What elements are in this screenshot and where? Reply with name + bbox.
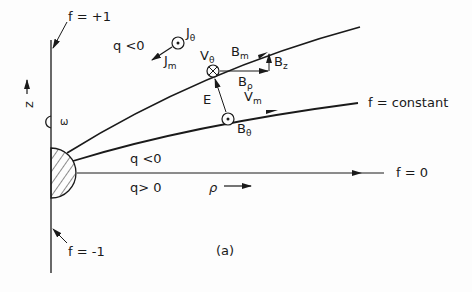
b-theta-label: Bθ xyxy=(237,121,252,138)
j-m-arrow-icon xyxy=(152,47,172,60)
equatorial-arrow-icon xyxy=(352,170,362,176)
rotation-icon xyxy=(46,116,51,128)
e-field-arrow-icon xyxy=(215,79,226,112)
q-neg-lower-label: q <0 xyxy=(130,151,162,166)
constant-field-line xyxy=(73,103,358,161)
f-constant-label: f = constant xyxy=(368,95,448,110)
e-field-label: E xyxy=(203,92,211,107)
v-theta-label: Vθ xyxy=(200,48,215,65)
q-neg-upper-label: q <0 xyxy=(113,38,145,53)
v-m-label: Vm xyxy=(244,89,262,106)
f-plus-one-leader xyxy=(53,22,67,48)
rho-axis-label: ρ xyxy=(209,180,218,195)
figure-caption: (a) xyxy=(216,243,234,258)
b-z-label: Bz xyxy=(274,54,288,71)
f-zero-label: f = 0 xyxy=(396,165,428,180)
f-plus-one-label: f = +1 xyxy=(68,9,111,24)
upper-field-line xyxy=(67,27,360,153)
q-pos-label: q> 0 xyxy=(130,180,162,195)
j-m-label: Jm xyxy=(163,53,177,71)
b-m-label: Bm xyxy=(231,44,249,61)
central-body xyxy=(51,148,76,198)
field-line-diagram: f = +1 f = -1 z ω q <0 q <0 q> 0 ρ f = 0… xyxy=(0,0,472,292)
f-minus-one-leader xyxy=(53,229,67,243)
z-axis-label: z xyxy=(21,101,36,108)
j-theta-label: Jθ xyxy=(185,25,196,43)
vm-arrow-icon xyxy=(266,110,278,114)
omega-label: ω xyxy=(60,116,68,127)
f-minus-one-label: f = -1 xyxy=(68,244,105,259)
